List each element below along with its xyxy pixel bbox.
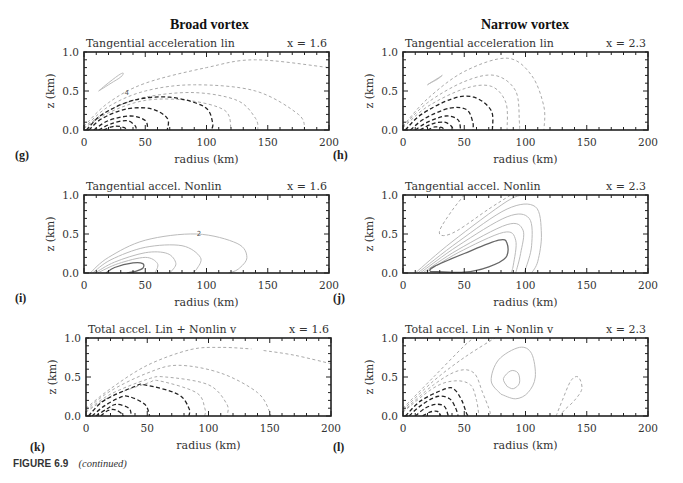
panel-annotation: x = 1.6	[287, 37, 327, 50]
panel-title: Total accel. Lin + Nonlin v	[405, 323, 554, 336]
x-tick-label: 100	[515, 422, 535, 434]
contour-lines	[403, 338, 582, 416]
x-tick-label: 50	[458, 279, 471, 291]
x-tick-label: 150	[577, 279, 597, 291]
x-tick-label: 0	[400, 422, 407, 434]
x-tick-label: 150	[260, 422, 280, 434]
x-tick-label: 50	[141, 422, 154, 434]
contour-line	[86, 377, 228, 416]
panel-g: 40501001502000.00.51.0radius (km)z (km)T…	[15, 37, 339, 166]
contour-line	[84, 93, 258, 130]
contour-label: 4	[124, 89, 129, 97]
x-tick-label: 0	[81, 136, 88, 148]
y-tick-label: 1.0	[62, 46, 79, 58]
panel-title: Tangential acceleration lin	[86, 37, 235, 50]
y-tick-label: 0.5	[64, 371, 81, 383]
x-tick-label: 0	[400, 279, 407, 291]
contour-line	[86, 347, 251, 408]
x-tick-label: 150	[258, 279, 278, 291]
x-axis-label: radius (km)	[174, 296, 238, 309]
panel-title: Tangential acceleration lin	[405, 37, 554, 50]
x-axis-label: radius (km)	[174, 153, 238, 166]
contour-line	[403, 338, 474, 408]
y-axis-label: z (km)	[44, 217, 57, 252]
y-axis-label: z (km)	[46, 360, 59, 395]
panel-letter: (h)	[333, 148, 348, 162]
x-axis-label: radius (km)	[176, 439, 240, 452]
x-tick-label: 0	[81, 279, 88, 291]
x-axis-label: radius (km)	[493, 153, 557, 166]
contour-lines	[415, 195, 541, 273]
x-tick-label: 50	[458, 422, 471, 434]
x-tick-label: 0	[83, 422, 90, 434]
y-tick-label: 0.0	[62, 124, 79, 136]
plot-frame	[403, 52, 648, 130]
y-tick-label: 1.0	[381, 46, 398, 58]
contour-line	[98, 257, 158, 273]
contour-line	[403, 58, 545, 130]
x-tick-label: 150	[577, 422, 597, 434]
panel-h: 0501001502000.00.51.0radius (km)z (km)Ta…	[333, 37, 658, 166]
contour-line	[93, 245, 201, 273]
contour-line	[86, 365, 271, 416]
y-tick-label: 0.0	[64, 410, 81, 422]
figure-note: (continued)	[78, 458, 126, 469]
plot-frame	[84, 52, 329, 130]
y-tick-label: 0.5	[62, 228, 79, 240]
figure-label: FIGURE 6.9	[13, 458, 68, 469]
contour-line	[428, 75, 443, 84]
x-tick-label: 50	[458, 136, 471, 148]
x-tick-label: 200	[638, 279, 658, 291]
panel-annotation: x = 2.3	[606, 180, 646, 193]
panel-letter: (l)	[333, 440, 344, 454]
panel-annotation: x = 1.6	[287, 180, 327, 193]
plot-frame	[84, 195, 329, 273]
y-tick-label: 1.0	[381, 332, 398, 344]
x-tick-label: 50	[139, 279, 152, 291]
x-axis-label: radius (km)	[493, 296, 557, 309]
panel-letter: (i)	[15, 291, 26, 305]
x-tick-label: 150	[258, 136, 278, 148]
plot-frame	[86, 338, 331, 416]
x-axis-label: radius (km)	[493, 439, 557, 452]
contour-line	[84, 85, 305, 130]
figure-caption: FIGURE 6.9(continued)	[13, 458, 127, 469]
x-tick-label: 150	[577, 136, 597, 148]
contour-line	[556, 377, 582, 416]
x-tick-label: 100	[515, 279, 535, 291]
x-tick-label: 50	[139, 136, 152, 148]
contour-line	[96, 404, 132, 416]
y-tick-label: 1.0	[62, 189, 79, 201]
panel-letter: (g)	[15, 148, 29, 162]
x-tick-label: 0	[400, 136, 407, 148]
contour-line	[264, 351, 331, 364]
panel-i: 20501001502000.00.51.0radius (km)z (km)T…	[15, 180, 339, 309]
y-tick-label: 0.0	[381, 267, 398, 279]
contour-lines	[90, 234, 247, 273]
contour-line	[503, 370, 519, 388]
contour-line	[99, 73, 124, 91]
contour-line	[420, 122, 452, 130]
panel-letter: (j)	[333, 291, 345, 305]
panel-j: 0501001502000.00.51.0radius (km)z (km)Ta…	[333, 180, 658, 309]
y-tick-label: 1.0	[381, 189, 398, 201]
y-axis-label: z (km)	[44, 74, 57, 109]
contour-line	[89, 108, 169, 130]
y-axis-label: z (km)	[363, 74, 376, 109]
x-tick-label: 100	[198, 422, 218, 434]
y-tick-label: 0.0	[381, 124, 398, 136]
contour-line	[84, 60, 329, 126]
panel-letter: (k)	[30, 440, 45, 454]
y-tick-label: 0.5	[381, 371, 398, 383]
y-axis-label: z (km)	[363, 360, 376, 395]
y-tick-label: 1.0	[64, 332, 81, 344]
figure-panels: 40501001502000.00.51.0radius (km)z (km)T…	[0, 0, 683, 483]
x-tick-label: 200	[319, 279, 339, 291]
x-tick-label: 200	[638, 136, 658, 148]
y-tick-label: 0.5	[381, 85, 398, 97]
contour-lines	[403, 58, 545, 130]
panel-annotation: x = 2.3	[606, 37, 646, 50]
contour-lines	[84, 60, 329, 130]
x-tick-label: 100	[515, 136, 535, 148]
panel-title: Tangential accel. Nonlin	[86, 180, 222, 193]
